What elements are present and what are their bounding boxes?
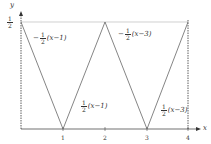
x-tick-label-1: 1 — [61, 134, 65, 141]
expr: (x−3) — [168, 106, 188, 114]
expr: (x−1) — [47, 34, 67, 42]
den: 2 — [126, 35, 130, 41]
x-axis-arrow-icon — [196, 127, 201, 131]
sign: − — [118, 30, 124, 38]
den: 2 — [41, 39, 45, 45]
expr: (x−3) — [132, 30, 152, 38]
x-tick-label-2: 2 — [103, 134, 107, 141]
plot-area — [0, 0, 211, 144]
y-axis-label: y — [10, 2, 14, 9]
den: 2 — [162, 111, 166, 117]
annotation-half-x-minus-3: 12(x−3) — [160, 104, 188, 117]
y-axis-arrow-icon — [19, 11, 23, 16]
x-axis-label: x — [203, 125, 207, 132]
x-tick-label-3: 3 — [145, 134, 149, 141]
den: 2 — [82, 107, 86, 113]
annotation-half-x-minus-1: 12(x−1) — [80, 100, 108, 113]
sign: − — [33, 34, 39, 42]
annotation-neg-half-x-minus-3: −12(x−3) — [118, 28, 151, 41]
expr: (x−1) — [88, 102, 108, 110]
y-tick-half: 12 — [6, 16, 14, 29]
y-tick-den: 2 — [8, 23, 12, 29]
x-tick-label-4: 4 — [186, 134, 190, 141]
annotation-neg-half-x-minus-1: −12(x−1) — [33, 32, 66, 45]
